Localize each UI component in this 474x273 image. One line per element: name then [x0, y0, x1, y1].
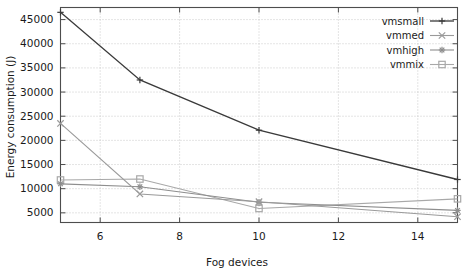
y-tick-label: 5000 [27, 206, 54, 218]
y-tick-label: 35000 [20, 61, 53, 73]
y-tick-label: 40000 [20, 37, 53, 49]
x-tick-label: 14 [411, 230, 425, 242]
x-tick-label: 8 [176, 230, 183, 242]
y-axis-title: Energy consumption (J) [4, 56, 16, 179]
legend-label-vmmix: vmmix [390, 59, 424, 70]
energy-consumption-line-chart: 5000100001500020000250003000035000400004… [0, 0, 474, 273]
y-tick-label: 25000 [20, 110, 53, 122]
y-tick-label: 30000 [20, 86, 53, 98]
legend-label-vmsmall: vmsmall [382, 16, 424, 27]
x-tick-label: 6 [97, 230, 104, 242]
chart-canvas: 5000100001500020000250003000035000400004… [0, 0, 474, 273]
y-tick-label: 45000 [20, 13, 53, 25]
x-tick-label: 12 [332, 230, 345, 242]
x-axis-title: Fog devices [206, 256, 268, 268]
y-tick-label: 10000 [20, 182, 53, 194]
y-tick-label: 20000 [20, 134, 53, 146]
legend-label-vmmed: vmmed [386, 30, 424, 41]
y-tick-label: 15000 [20, 158, 53, 170]
y-axis-tick-labels: 5000100001500020000250003000035000400004… [20, 13, 53, 218]
legend-label-vmhigh: vmhigh [387, 45, 424, 56]
x-tick-label: 10 [252, 230, 265, 242]
